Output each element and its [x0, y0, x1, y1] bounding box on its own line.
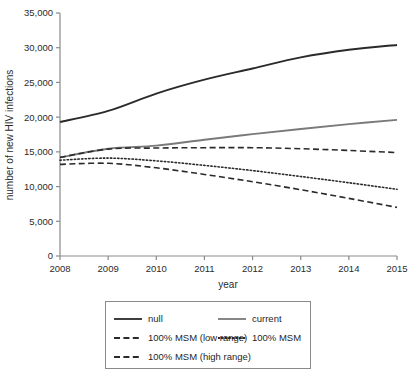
y-tick-label: 15,000 [24, 146, 53, 157]
legend-line-swatch [114, 352, 142, 362]
y-axis-title: number of new HIV infections [4, 70, 15, 201]
x-tick-label: 2008 [49, 263, 70, 274]
y-tick-label: 35,000 [24, 7, 53, 18]
legend-items: nullcurrent100% MSM (low range)100% MSM1… [106, 302, 310, 368]
data-series [60, 45, 397, 207]
x-axis-title: year [218, 279, 238, 290]
x-axis-ticks: 20082009201020112012201320142015 [49, 256, 407, 274]
y-axis-ticks: 05,00010,00015,00020,00025,00030,00035,0… [24, 7, 60, 261]
y-tick-label: 5,000 [29, 216, 53, 227]
legend-item[interactable]: current [218, 312, 282, 326]
legend-label: current [252, 314, 282, 324]
x-tick-label: 2010 [146, 263, 167, 274]
plot-area: 05,00010,00015,00020,00025,00030,00035,0… [0, 0, 416, 296]
y-tick-label: 10,000 [24, 181, 53, 192]
series-line [60, 120, 397, 157]
legend-line-swatch [114, 314, 142, 324]
legend-item[interactable]: null [114, 312, 163, 326]
y-tick-label: 30,000 [24, 42, 53, 53]
legend-line-swatch [218, 333, 246, 343]
series-line [60, 45, 397, 122]
chart-figure: 05,00010,00015,00020,00025,00030,00035,0… [0, 0, 416, 381]
y-tick-label: 20,000 [24, 112, 53, 123]
series-line [60, 148, 397, 158]
legend-item[interactable]: 100% MSM (high range) [114, 350, 251, 364]
x-tick-label: 2014 [338, 263, 359, 274]
legend-line-swatch [114, 333, 142, 343]
y-tick-label: 25,000 [24, 77, 53, 88]
series-line [60, 163, 397, 207]
y-tick-label: 0 [48, 250, 53, 261]
legend-label: 100% MSM [252, 333, 301, 343]
x-tick-label: 2012 [242, 263, 263, 274]
chart-legend: nullcurrent100% MSM (low range)100% MSM1… [105, 301, 311, 369]
legend-item[interactable]: 100% MSM [218, 331, 301, 345]
x-tick-label: 2015 [386, 263, 407, 274]
legend-line-swatch [218, 314, 246, 324]
legend-label: null [148, 314, 163, 324]
legend-label: 100% MSM (high range) [148, 352, 251, 362]
line-chart-svg: 05,00010,00015,00020,00025,00030,00035,0… [0, 0, 416, 296]
x-tick-label: 2011 [194, 263, 214, 274]
x-tick-label: 2009 [98, 263, 119, 274]
x-tick-label: 2013 [290, 263, 311, 274]
